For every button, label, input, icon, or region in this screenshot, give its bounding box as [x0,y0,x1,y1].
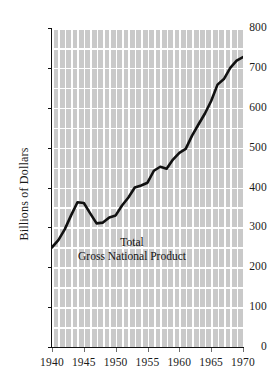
y-axis-line [51,28,52,348]
y-tick-mark [48,68,51,69]
x-tick-mark [52,348,53,352]
y-tick-label: 800 [223,22,267,34]
plot-area [52,28,243,347]
y-tick-mark [48,108,51,109]
annotation-line-2: Gross National Product [62,250,202,264]
y-tick-mark [48,267,51,268]
x-tick-label: 1970 [223,357,263,369]
series-annotation: Total Gross National Product [62,236,202,263]
y-tick-label: 300 [223,221,267,233]
y-tick-mark [48,307,51,308]
y-tick-mark [48,148,51,149]
x-tick-mark [243,348,244,352]
y-tick-mark [48,188,51,189]
y-tick-label: 400 [223,182,267,194]
y-tick-mark [48,347,51,348]
x-tick-mark [179,348,180,352]
y-tick-mark [48,227,51,228]
y-tick-label: 600 [223,102,267,114]
annotation-line-1: Total [62,236,202,250]
y-tick-label: 700 [223,62,267,74]
x-tick-mark [148,348,149,352]
x-tick-mark [116,348,117,352]
y-tick-label: 500 [223,142,267,154]
y-tick-label: 100 [223,301,267,313]
y-tick-mark [48,28,51,29]
y-axis-title: Billions of Dollars [18,114,30,274]
x-tick-mark [211,348,212,352]
y-tick-label: 200 [223,261,267,273]
y-tick-label: 0 [223,341,267,353]
gnp-line-chart: 0100200300400500600700800 19401945195019… [0,0,267,381]
x-tick-mark [84,348,85,352]
series-line-gnp [52,28,243,347]
